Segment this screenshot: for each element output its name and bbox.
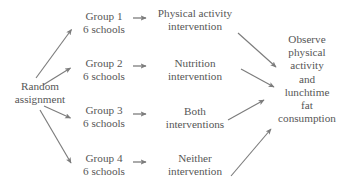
treatment-4-line1: Neither [147, 152, 243, 165]
node-treatment-physical-activity: Physical activity intervention [147, 7, 243, 33]
treatment-2-line2: intervention [147, 70, 243, 83]
group-3-size: 6 schools [74, 117, 134, 130]
treatment-3-line1: Both [147, 105, 243, 118]
treatment-1-line2: intervention [147, 20, 243, 33]
group-1-size: 6 schools [74, 23, 134, 36]
outcome-line4: and [268, 73, 346, 86]
outcome-line7: consumption [268, 112, 346, 125]
treatment-2-line1: Nutrition [147, 57, 243, 70]
node-treatment-neither: Neither intervention [147, 152, 243, 178]
node-group-4: Group 4 6 schools [74, 152, 134, 178]
node-group-1: Group 1 6 schools [74, 10, 134, 36]
group-4-size: 6 schools [74, 165, 134, 178]
outcome-line6: fat [268, 99, 346, 112]
treatment-1-line1: Physical activity [147, 7, 243, 20]
group-1-name: Group 1 [74, 10, 134, 23]
outcome-line2: physical [268, 46, 346, 59]
node-group-2: Group 2 6 schools [74, 57, 134, 83]
node-treatment-nutrition: Nutrition intervention [147, 57, 243, 83]
treatment-4-line2: intervention [147, 165, 243, 178]
arrow-random-to-group3 [44, 106, 71, 118]
outcome-line1: Observe [268, 33, 346, 46]
treatment-3-line2: interventions [147, 118, 243, 131]
group-4-name: Group 4 [74, 152, 134, 165]
node-random-assignment: Random assignment [4, 80, 76, 106]
random-assignment-line1: Random [4, 80, 76, 93]
random-assignment-line2: assignment [4, 93, 76, 106]
arrow-random-to-group4 [40, 110, 71, 163]
node-outcome-observation: Observe physical activity and lunchtime … [268, 33, 346, 126]
flow-diagram: Random assignment Group 1 6 schools Grou… [0, 0, 347, 193]
node-treatment-both: Both interventions [147, 105, 243, 131]
group-2-size: 6 schools [74, 70, 134, 83]
outcome-line3: activity [268, 59, 346, 72]
group-2-name: Group 2 [74, 57, 134, 70]
node-group-3: Group 3 6 schools [74, 104, 134, 130]
group-3-name: Group 3 [74, 104, 134, 117]
outcome-line5: lunchtime [268, 86, 346, 99]
